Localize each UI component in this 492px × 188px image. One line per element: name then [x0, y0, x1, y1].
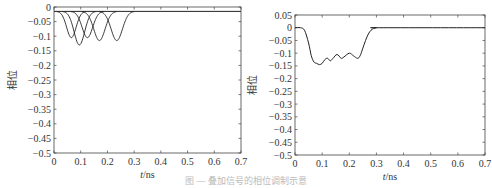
x-tick-label: 0.5 [181, 156, 194, 167]
x-tick-label: 0.5 [424, 158, 437, 169]
y-tick-label: −0.4 [33, 118, 51, 129]
x-tick-label: 0.2 [343, 158, 356, 169]
y-tick-label: −0.35 [269, 111, 292, 122]
y-tick-label: −0.5 [274, 150, 292, 161]
y-tick-label: 0.05 [275, 10, 293, 21]
figure-caption: 图 — 叠加信号的相位调制示意 [0, 174, 492, 187]
y-tick-label: −0.3 [33, 89, 51, 100]
y-tick-label: −0.25 [269, 86, 292, 97]
y-tick-label: −0.45 [28, 133, 51, 144]
right-phase-chart: 00.10.20.30.40.50.60.70.050−0.05−0.1−0.1… [246, 10, 491, 183]
x-tick-label: 0.6 [208, 156, 221, 167]
figure-canvas: 00.10.20.30.40.50.60.70−0.05−0.1−0.15−0.… [0, 0, 492, 188]
y-tick-label: −0.4 [274, 124, 292, 135]
x-tick-label: 0.3 [370, 158, 383, 169]
x-tick-label: 0.3 [128, 156, 141, 167]
x-tick-label: 0.2 [101, 156, 114, 167]
pulse-curve [99, 12, 134, 41]
x-tick-label: 0.1 [316, 158, 329, 169]
y-tick-label: −0.05 [28, 16, 51, 27]
y-tick-label: −0.25 [28, 75, 51, 86]
x-tick-label: 0.6 [452, 158, 465, 169]
x-tick-label: 0.7 [479, 158, 492, 169]
x-tick-label: 0.4 [155, 156, 168, 167]
x-tick-label: 0 [52, 156, 57, 167]
plot-frame [295, 15, 485, 155]
y-tick-label: −0.5 [33, 148, 51, 159]
y-axis-label: 相位 [6, 70, 18, 90]
x-tick-label: 0.1 [74, 156, 87, 167]
y-tick-label: −0.3 [274, 99, 292, 110]
pulse-curve [71, 12, 104, 38]
y-axis-label: 相位 [246, 75, 258, 95]
y-tick-label: −0.15 [28, 45, 51, 56]
y-tick-label: −0.35 [28, 104, 51, 115]
pulse-curve [63, 12, 96, 45]
y-tick-label: −0.45 [269, 137, 292, 148]
y-tick-label: −0.2 [274, 73, 292, 84]
y-tick-label: 0 [287, 22, 292, 33]
left-phase-chart: 00.10.20.30.40.50.60.70−0.05−0.1−0.15−0.… [6, 2, 247, 181]
y-tick-label: −0.15 [269, 60, 292, 71]
x-tick-label: 0.7 [235, 156, 248, 167]
sum-phase-curve [295, 28, 485, 65]
x-tick-label: 0 [293, 158, 298, 169]
y-tick-label: 0 [46, 2, 51, 13]
y-tick-label: −0.2 [33, 60, 51, 71]
pulse-curve [82, 12, 117, 41]
x-tick-label: 0.4 [397, 158, 410, 169]
plot-frame [54, 7, 241, 153]
y-tick-label: −0.1 [33, 31, 51, 42]
y-tick-label: −0.05 [269, 35, 292, 46]
y-tick-label: −0.1 [274, 48, 292, 59]
